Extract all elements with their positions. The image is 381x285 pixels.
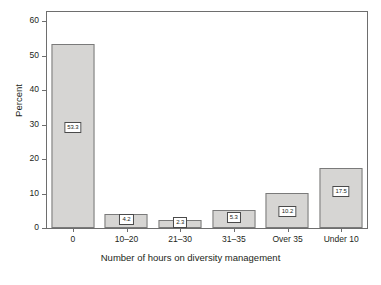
bar-value-label: 17.5 <box>333 186 350 197</box>
y-tick-mark <box>42 228 46 229</box>
y-tick: 40 <box>0 90 46 91</box>
x-axis-line <box>46 228 368 229</box>
y-tick-label: 40 <box>30 84 39 95</box>
x-tick-label: Under 10 <box>324 234 359 245</box>
bar-value-label: 5.3 <box>227 212 241 223</box>
y-axis-title: Percent <box>13 61 24 141</box>
x-tick-mark <box>234 228 235 232</box>
bar-chart: Percent 0102030405060 53.34.22.35.310.21… <box>0 0 381 285</box>
x-axis-title: Number of hours on diversity management <box>0 252 381 263</box>
bar[interactable] <box>320 168 363 228</box>
bar-slot: 5.3 <box>207 11 261 228</box>
x-tick-mark <box>73 228 74 232</box>
y-tick-label: 20 <box>30 153 39 164</box>
bars-layer: 53.34.22.35.310.217.5 <box>46 11 368 228</box>
x-tick-mark <box>180 228 181 232</box>
x-tick-mark <box>127 228 128 232</box>
y-tick-label: 30 <box>30 119 39 130</box>
y-tick: 0 <box>0 228 46 229</box>
bar-value-label: 10.2 <box>279 206 296 217</box>
y-tick: 10 <box>0 194 46 195</box>
bar-slot: 17.5 <box>314 11 368 228</box>
bar-slot: 4.2 <box>100 11 154 228</box>
x-tick-label: 0 <box>70 234 75 245</box>
bar-value-label: 2.3 <box>173 217 187 228</box>
y-tick-label: 50 <box>30 50 39 61</box>
x-tick-label: 10–20 <box>115 234 139 245</box>
x-tick-label: Over 35 <box>272 234 302 245</box>
x-tick-mark <box>288 228 289 232</box>
bar-slot: 2.3 <box>153 11 207 228</box>
y-tick: 60 <box>0 21 46 22</box>
x-tick-label: 21–30 <box>168 234 192 245</box>
y-tick-label: 0 <box>34 222 39 233</box>
x-tick-label: 31–35 <box>222 234 246 245</box>
x-tick-mark <box>341 228 342 232</box>
bar-slot: 10.2 <box>261 11 315 228</box>
bar-value-label: 53.3 <box>64 122 81 133</box>
y-tick: 20 <box>0 159 46 160</box>
y-tick: 30 <box>0 125 46 126</box>
y-tick-label: 60 <box>30 15 39 26</box>
bar-slot: 53.3 <box>46 11 100 228</box>
y-tick-label: 10 <box>30 188 39 199</box>
y-tick: 50 <box>0 56 46 57</box>
bar[interactable] <box>51 44 94 228</box>
bar-value-label: 4.2 <box>119 214 133 225</box>
